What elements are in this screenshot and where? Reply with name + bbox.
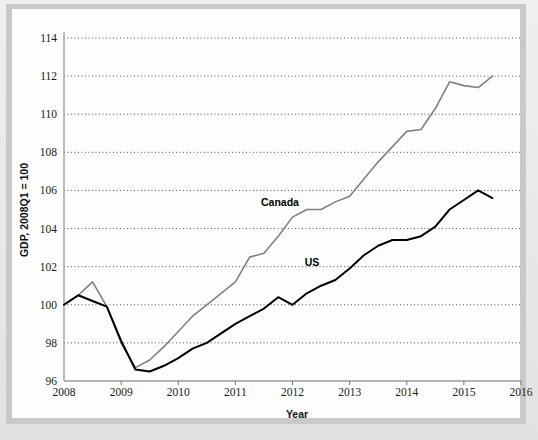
x-tick-2016: 2016 xyxy=(510,386,533,398)
figure-page: 9698100102104106108110112114 20082009201… xyxy=(0,0,538,440)
x-tick-2008: 2008 xyxy=(53,386,76,398)
x-tick-2014: 2014 xyxy=(395,386,418,398)
x-tick-2012: 2012 xyxy=(281,386,304,398)
y-tick-100: 100 xyxy=(40,299,58,311)
y-tick-104: 104 xyxy=(40,223,58,235)
chart-svg-container: 9698100102104106108110112114 20082009201… xyxy=(0,0,538,440)
series-line-us xyxy=(64,190,492,371)
gdp-line-chart: 9698100102104106108110112114 20082009201… xyxy=(0,0,538,440)
y-tick-98: 98 xyxy=(46,337,58,349)
series-label-us: US xyxy=(305,256,320,268)
x-axis-title: Year xyxy=(286,408,308,420)
series-label-canada: Canada xyxy=(261,196,299,208)
series-line-canada xyxy=(64,76,492,368)
y-tick-114: 114 xyxy=(40,32,57,44)
gridlines xyxy=(64,38,521,343)
x-tick-2010: 2010 xyxy=(167,386,190,398)
y-tick-112: 112 xyxy=(40,70,57,82)
y-axis-title: GDP, 2008Q1 = 100 xyxy=(18,163,30,257)
x-tick-2015: 2015 xyxy=(452,386,475,398)
x-tick-2011: 2011 xyxy=(224,386,247,398)
y-tick-110: 110 xyxy=(40,108,57,120)
y-axis-tick-labels: 9698100102104106108110112114 xyxy=(40,32,58,387)
data-series-lines xyxy=(64,76,492,371)
x-axis-tick-labels: 200820092010201120122013201420152016 xyxy=(53,386,533,398)
x-tick-2009: 2009 xyxy=(110,386,133,398)
y-tick-102: 102 xyxy=(40,261,58,273)
x-tick-2013: 2013 xyxy=(338,386,361,398)
y-tick-108: 108 xyxy=(40,146,58,158)
y-tick-106: 106 xyxy=(40,184,58,196)
